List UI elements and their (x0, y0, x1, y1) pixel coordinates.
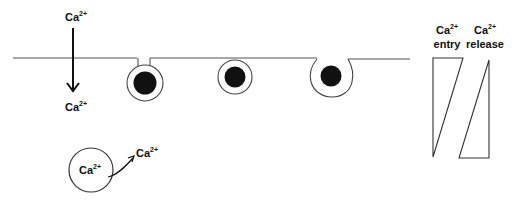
vesicle-fused (310, 59, 353, 97)
entry-label: entry (434, 38, 462, 50)
granule-core-icon (225, 67, 246, 88)
entry-gradient: Ca2+ entry (433, 23, 463, 157)
release-gradient: Ca2+ release (459, 23, 504, 158)
calcium-influx: Ca2+ Ca2+ (65, 10, 87, 113)
vesicle-docked (218, 60, 252, 94)
vesicle-docked-neck (127, 58, 163, 101)
calcium-store: Ca2+ Ca2+ (69, 146, 158, 192)
influx-bottom-label: Ca2+ (65, 100, 87, 113)
store-released-label: Ca2+ (136, 146, 158, 159)
granule-core-icon (134, 72, 157, 95)
calcium-exocytosis-diagram: Ca2+ Ca2+ Ca2+ Ca2+ Ca2+ entry Ca2+ rele… (0, 0, 527, 201)
entry-label-ion: Ca2+ (436, 23, 458, 36)
release-label: release (466, 38, 504, 50)
release-arrow-icon (108, 158, 133, 177)
influx-top-label: Ca2+ (65, 10, 87, 23)
granule-core-icon (321, 66, 342, 87)
release-label-ion: Ca2+ (474, 23, 496, 36)
entry-wedge-icon (433, 58, 463, 157)
release-wedge-icon (459, 60, 489, 158)
store-inner-label: Ca2+ (79, 163, 101, 176)
